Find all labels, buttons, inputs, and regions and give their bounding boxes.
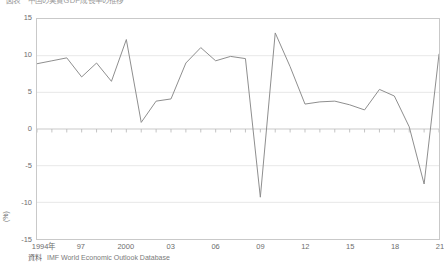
plot-area [36, 18, 440, 240]
source-text: IMF World Economic Outlook Database [47, 253, 170, 262]
x-tick-label: 2000 [117, 242, 134, 251]
data-series-line [37, 33, 439, 197]
y-axis: 151050-5-10-15 [0, 18, 32, 240]
x-tick-label: 12 [301, 242, 309, 251]
x-axis-ticks [37, 129, 439, 132]
x-tick-label: 09 [256, 242, 264, 251]
y-axis-unit-label: (%) [2, 211, 9, 222]
source-note: 資料IMF World Economic Outlook Database [28, 253, 170, 262]
y-tick-label: 15 [2, 14, 32, 22]
x-tick-label: 06 [211, 242, 219, 251]
y-tick-label: 10 [2, 51, 32, 59]
y-tick-label: -10 [2, 199, 32, 207]
y-tick-label: 0 [2, 125, 32, 133]
x-tick-label: 1994年 [32, 242, 56, 251]
source-label: 資料 [28, 253, 42, 262]
x-tick-label: 97 [77, 242, 85, 251]
chart-title: 図表 中国の実質GDP成長率の推移 [6, 0, 124, 5]
x-tick-label: 18 [391, 242, 399, 251]
chart-plot-svg [37, 19, 439, 239]
y-tick-label: -15 [2, 236, 32, 244]
x-tick-label: 15 [346, 242, 354, 251]
y-tick-label: 5 [2, 88, 32, 96]
y-tick-label: -5 [2, 162, 32, 170]
x-tick-label: 03 [166, 242, 174, 251]
x-tick-label: 21 [436, 242, 444, 251]
gridlines [37, 56, 439, 203]
